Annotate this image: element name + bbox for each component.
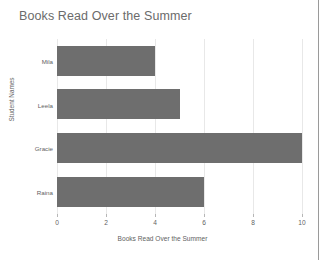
bar-band xyxy=(57,127,302,171)
y-tick-label-leela: Leela xyxy=(38,101,53,108)
y-axis-title: Student Names xyxy=(8,65,15,135)
x-tick-mark-8 xyxy=(253,214,254,217)
y-tick-label-mila: Mila xyxy=(42,57,53,64)
x-tick-label-8: 8 xyxy=(251,219,255,226)
x-tick-mark-6 xyxy=(204,214,205,217)
bar-gracie[interactable] xyxy=(57,133,302,163)
x-tick-mark-2 xyxy=(106,214,107,217)
x-axis-title: Books Read Over the Summer xyxy=(0,235,325,242)
x-tick-label-0: 0 xyxy=(55,219,59,226)
chart-figure: Books Read Over the Summer RainaGracieLe… xyxy=(0,0,325,260)
bar-leela[interactable] xyxy=(57,89,180,119)
gridline-x-10 xyxy=(302,39,303,214)
x-tick-mark-4 xyxy=(155,214,156,217)
x-tick-mark-0 xyxy=(57,214,58,217)
x-tick-label-6: 6 xyxy=(202,219,206,226)
x-axis-ticks: 0246810 xyxy=(57,214,302,230)
bar-raina[interactable] xyxy=(57,177,204,207)
y-axis-tick-labels: RainaGracieLeelaMila xyxy=(20,39,53,214)
y-tick-label-raina: Raina xyxy=(37,189,53,196)
chart-title: Books Read Over the Summer xyxy=(19,9,192,23)
x-tick-mark-10 xyxy=(302,214,303,217)
y-tick-label-gracie: Gracie xyxy=(35,145,53,152)
bar-band xyxy=(57,170,302,214)
plot-area xyxy=(57,39,302,214)
x-tick-label-4: 4 xyxy=(153,219,157,226)
x-tick-label-10: 10 xyxy=(298,219,305,226)
bar-band xyxy=(57,83,302,127)
bar-mila[interactable] xyxy=(57,46,155,76)
bar-band xyxy=(57,39,302,83)
page-edge-rule xyxy=(318,0,319,260)
x-tick-label-2: 2 xyxy=(104,219,108,226)
